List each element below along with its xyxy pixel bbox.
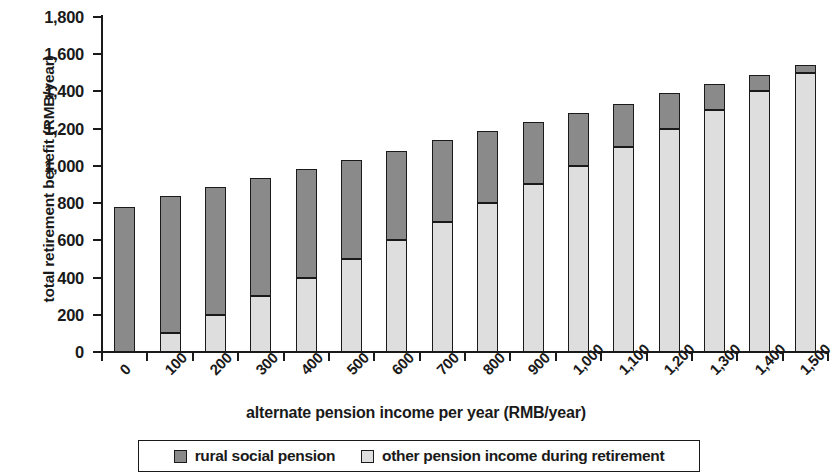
y-tick-200 bbox=[93, 314, 102, 316]
y-tick-label-800: 800 bbox=[57, 194, 84, 213]
bar-segment-rural-social-pension bbox=[477, 131, 498, 203]
legend-item-other-pension-income: other pension income during retirement bbox=[361, 447, 664, 465]
bar-segment-other-pension-income bbox=[386, 240, 407, 352]
bar-segment-other-pension-income bbox=[568, 166, 589, 352]
y-tick-label-1000: 1,000 bbox=[44, 156, 84, 175]
y-tick-1600 bbox=[93, 53, 102, 55]
bar-segment-other-pension-income bbox=[160, 333, 181, 352]
x-axis-title: alternate pension income per year (RMB/y… bbox=[0, 404, 832, 422]
legend-swatch-dark bbox=[174, 450, 187, 463]
x-tick-label-400: 400 bbox=[297, 349, 326, 378]
bar-segment-rural-social-pension bbox=[114, 207, 135, 352]
legend-swatch-light bbox=[361, 450, 374, 463]
x-tick-5 bbox=[328, 353, 330, 361]
bar-segment-rural-social-pension bbox=[432, 140, 453, 222]
x-tick-2 bbox=[192, 353, 194, 361]
bar-segment-rural-social-pension bbox=[613, 104, 634, 147]
bar-900 bbox=[523, 122, 544, 352]
bar-segment-other-pension-income bbox=[432, 222, 453, 352]
bar-segment-other-pension-income bbox=[659, 129, 680, 352]
x-tick-label-0: 0 bbox=[116, 360, 134, 378]
bar-1300 bbox=[704, 84, 725, 352]
x-tick-10 bbox=[555, 353, 557, 361]
bar-segment-rural-social-pension bbox=[659, 93, 680, 128]
bar-1200 bbox=[659, 93, 680, 352]
bar-segment-other-pension-income bbox=[296, 278, 317, 352]
x-tick-8 bbox=[464, 353, 466, 361]
bar-segment-rural-social-pension bbox=[205, 187, 226, 314]
y-tick-label-1400: 1,400 bbox=[44, 82, 84, 101]
x-tick-4 bbox=[283, 353, 285, 361]
y-tick-1200 bbox=[93, 128, 102, 130]
legend-item-rural-social-pension: rural social pension bbox=[174, 447, 335, 465]
bar-segment-rural-social-pension bbox=[341, 160, 362, 259]
y-tick-1000 bbox=[93, 165, 102, 167]
y-tick-label-0: 0 bbox=[75, 343, 84, 362]
bar-segment-rural-social-pension bbox=[523, 122, 544, 184]
y-axis-line bbox=[101, 15, 103, 354]
y-tick-label-1800: 1,800 bbox=[44, 8, 84, 27]
x-tick-label-900: 900 bbox=[524, 349, 553, 378]
bar-800 bbox=[477, 131, 498, 352]
y-tick-label-400: 400 bbox=[57, 268, 84, 287]
chart-legend: rural social pension other pension incom… bbox=[138, 440, 700, 472]
bar-segment-other-pension-income bbox=[704, 110, 725, 352]
bar-segment-other-pension-income bbox=[205, 315, 226, 352]
bar-segment-rural-social-pension bbox=[749, 75, 770, 92]
y-tick-label-600: 600 bbox=[57, 231, 84, 250]
bar-segment-rural-social-pension bbox=[568, 113, 589, 166]
x-tick-label-200: 200 bbox=[206, 349, 235, 378]
y-tick-1800 bbox=[93, 16, 102, 18]
bar-500 bbox=[341, 160, 362, 352]
y-tick-label-200: 200 bbox=[57, 305, 84, 324]
bar-200 bbox=[205, 187, 226, 352]
bar-1100 bbox=[613, 104, 634, 352]
bar-segment-rural-social-pension bbox=[250, 178, 271, 296]
x-tick-7 bbox=[419, 353, 421, 361]
bar-600 bbox=[386, 151, 407, 352]
bar-400 bbox=[296, 169, 317, 352]
x-tick-6 bbox=[373, 353, 375, 361]
bar-segment-rural-social-pension bbox=[386, 151, 407, 240]
bar-700 bbox=[432, 140, 453, 352]
x-tick-label-300: 300 bbox=[252, 349, 281, 378]
y-tick-400 bbox=[93, 277, 102, 279]
x-tick-label-100: 100 bbox=[161, 349, 190, 378]
x-tick-3 bbox=[237, 353, 239, 361]
bar-1500 bbox=[795, 65, 816, 352]
bar-segment-rural-social-pension bbox=[296, 169, 317, 278]
x-tick-label-600: 600 bbox=[388, 349, 417, 378]
bar-segment-rural-social-pension bbox=[704, 84, 725, 110]
bar-segment-rural-social-pension bbox=[795, 65, 816, 72]
bar-segment-other-pension-income bbox=[341, 259, 362, 352]
x-tick-label-500: 500 bbox=[343, 349, 372, 378]
x-tick-1 bbox=[146, 353, 148, 361]
x-tick-label-800: 800 bbox=[479, 349, 508, 378]
bar-segment-other-pension-income bbox=[250, 296, 271, 352]
legend-label-rural-social-pension: rural social pension bbox=[195, 447, 335, 465]
stacked-bar-chart: total retirement benefit (RMB/year) 0200… bbox=[0, 0, 832, 474]
bar-segment-other-pension-income bbox=[613, 147, 634, 352]
x-tick-label-700: 700 bbox=[433, 349, 462, 378]
y-tick-600 bbox=[93, 239, 102, 241]
bar-300 bbox=[250, 178, 271, 352]
bar-segment-rural-social-pension bbox=[160, 196, 181, 334]
bar-0 bbox=[114, 207, 135, 352]
bar-1400 bbox=[749, 75, 770, 352]
legend-label-other-pension-income: other pension income during retirement bbox=[382, 447, 664, 465]
bar-1000 bbox=[568, 113, 589, 352]
bar-segment-other-pension-income bbox=[749, 91, 770, 352]
x-tick-9 bbox=[509, 353, 511, 361]
y-tick-label-1600: 1,600 bbox=[44, 45, 84, 64]
bar-segment-other-pension-income bbox=[477, 203, 498, 352]
y-tick-800 bbox=[93, 202, 102, 204]
y-tick-label-1200: 1,200 bbox=[44, 119, 84, 138]
bar-100 bbox=[160, 196, 181, 352]
y-tick-1400 bbox=[93, 90, 102, 92]
bar-segment-other-pension-income bbox=[523, 184, 544, 352]
x-tick-0 bbox=[101, 353, 103, 361]
bar-segment-other-pension-income bbox=[795, 73, 816, 352]
